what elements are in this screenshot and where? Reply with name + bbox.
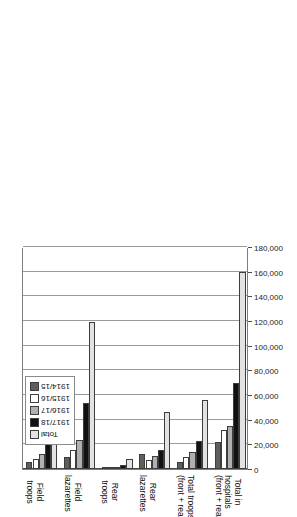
category-label: Total troops (front + rear) [176, 475, 195, 509]
axis-tick [248, 247, 252, 248]
bar [164, 412, 170, 469]
axis-tick [248, 420, 252, 421]
axis-tick-label: 160,000 [254, 269, 283, 278]
legend-item: 1914/15 [30, 382, 70, 391]
gridline [23, 320, 247, 321]
chart-legend: 1914/151915/161916/171917/18Total [25, 376, 75, 445]
category-label: Rear troops [100, 475, 119, 509]
axis-tick [248, 370, 252, 371]
legend-label: 1914/15 [41, 382, 70, 391]
bar [89, 322, 95, 469]
legend-item: 1915/16 [30, 394, 70, 403]
legend-label: Total [41, 430, 58, 439]
legend-swatch [30, 406, 39, 415]
legend-swatch [30, 394, 39, 403]
category-label: Total in hospitals (front + rear) [213, 475, 242, 509]
chart-stage: Field troopsField lazarettesRear troopsR… [0, 0, 297, 517]
legend-swatch [30, 382, 39, 391]
bar [202, 400, 208, 469]
bar [239, 272, 245, 469]
axis-tick-label: 120,000 [254, 318, 283, 327]
gridline [23, 295, 247, 296]
axis-tick-label: 20,000 [254, 441, 278, 450]
legend-item: 1916/17 [30, 406, 70, 415]
axis-tick-label: 180,000 [254, 244, 283, 253]
axis-tick [248, 444, 252, 445]
legend-swatch [30, 430, 39, 439]
gridline [23, 246, 247, 247]
axis-tick-label: 40,000 [254, 417, 278, 426]
gridline [23, 271, 247, 272]
bar-chart-figure: Field troopsField lazarettesRear troopsR… [0, 0, 297, 517]
axis-tick-label: 100,000 [254, 343, 283, 352]
category-axis: Field troopsField lazarettesRear troopsR… [22, 477, 248, 517]
legend-swatch [30, 418, 39, 427]
axis-tick-label: 140,000 [254, 293, 283, 302]
legend-label: 1917/18 [41, 418, 70, 427]
legend-item: Total [30, 430, 58, 439]
axis-tick [248, 346, 252, 347]
legend-label: 1916/17 [41, 406, 70, 415]
bar [126, 459, 132, 469]
axis-tick-label: 0 [254, 466, 258, 475]
axis-tick [248, 272, 252, 273]
category-label: Field lazarettes [63, 475, 82, 509]
axis-tick [248, 469, 252, 470]
gridline [23, 369, 247, 370]
axis-tick-label: 60,000 [254, 392, 278, 401]
category-label: Field troops [25, 475, 44, 509]
axis-tick [248, 395, 252, 396]
gridline [23, 345, 247, 346]
legend-item: 1917/18 [30, 418, 70, 427]
category-label: Rear lazarettes [138, 475, 157, 509]
axis-tick [248, 296, 252, 297]
axis-tick-label: 80,000 [254, 367, 278, 376]
legend-label: 1915/16 [41, 394, 70, 403]
axis-tick [248, 321, 252, 322]
